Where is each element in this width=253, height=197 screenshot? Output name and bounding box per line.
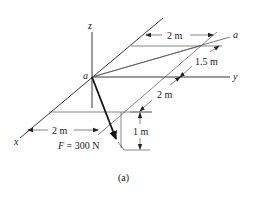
dim-15-arrow-up	[210, 46, 219, 52]
end-a-label: a	[233, 29, 238, 40]
origin-a-label: a	[83, 70, 88, 81]
dim-15-label: 1.5 m	[195, 56, 218, 67]
line-a-corner	[92, 46, 200, 77]
right-diagonal-line	[98, 32, 217, 135]
dim-2-diag-label: 2 m	[157, 89, 173, 100]
y-axis-label: y	[232, 71, 238, 82]
dim-top-label: 2 m	[167, 30, 183, 41]
force-value: = 300 N	[64, 140, 99, 151]
dim-15-arrow-down	[180, 66, 192, 77]
x-axis-label: x	[13, 136, 19, 147]
dim-2-diag-arrow-down	[140, 100, 152, 111]
force-diagram: 2 m 1.5 m 2 m 2 m 1 m z y x a a F = 300 …	[0, 0, 253, 197]
dim-bottom-label: 2 m	[52, 125, 68, 136]
dim-2-diag-arrow-up	[170, 77, 180, 85]
figure-caption: (a)	[118, 172, 129, 184]
force-label: F = 300 N	[57, 140, 99, 151]
dim-1m-label: 1 m	[133, 126, 149, 137]
z-axis-label: z	[87, 20, 92, 31]
